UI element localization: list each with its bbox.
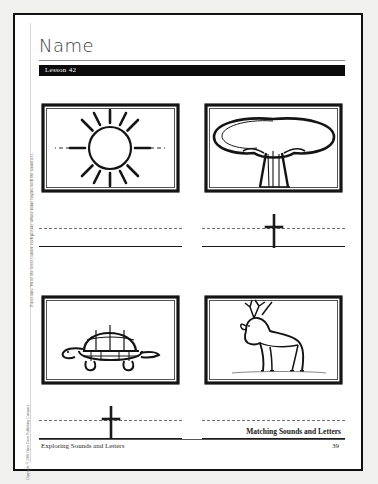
directions-text: Directions: Write the letter t under eac… — [29, 108, 34, 308]
name-label: Name — [39, 35, 94, 56]
lesson-banner: Lesson 42 — [39, 65, 345, 76]
deer-illustration — [202, 293, 345, 387]
exercise-item — [202, 101, 345, 258]
page-number: 39 — [332, 442, 339, 450]
exercise-grid — [39, 101, 345, 439]
turtle-illustration — [39, 293, 182, 387]
lesson-label: Lesson 42 — [45, 66, 76, 74]
answer-glyph-tree — [263, 214, 285, 248]
answer-glyph-turtle — [100, 406, 122, 440]
copyright-text: Copyright © 2001 Open Court Publishing C… — [26, 350, 30, 480]
answer-glyph-sun — [100, 214, 122, 248]
exercise-item — [39, 101, 182, 258]
handwriting-line[interactable] — [202, 212, 345, 258]
sun-illustration — [39, 101, 182, 195]
worksheet-page: Name Lesson 42 Directions: Write the let… — [13, 13, 363, 471]
handwriting-line[interactable] — [39, 212, 182, 258]
exercise-item — [39, 293, 182, 450]
name-write-line[interactable] — [39, 60, 345, 61]
footer-divider — [39, 439, 345, 440]
name-field-row: Name — [39, 35, 345, 61]
footer-book-title: Exploring Sounds and Letters — [41, 442, 124, 450]
footer-unit-title: Matching Sounds and Letters — [246, 427, 341, 436]
tree-illustration — [202, 101, 345, 195]
